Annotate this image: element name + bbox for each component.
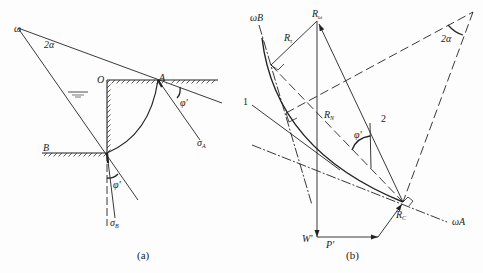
label-omega-a: ωA [452, 217, 465, 227]
r-tau-line [271, 21, 317, 65]
apex-dashed-2 [403, 12, 473, 202]
figure-canvas: ω 2α O A B φ' φ' σA σB (a) ωB Rω Rτ RN φ… [0, 0, 483, 273]
omega-b-line [18, 28, 138, 200]
label-2alpha-a: 2α [44, 40, 54, 50]
apex-dashed-1 [286, 12, 473, 113]
label-sigma-b: σB [110, 218, 119, 229]
label-r-n: RN [324, 110, 334, 121]
label-r-c: RC [396, 210, 406, 221]
label-phi-a: φ' [180, 98, 188, 108]
diagram-drawing [0, 0, 483, 273]
label-w: W' [302, 234, 312, 244]
sigma-a-line [158, 80, 200, 140]
panel-b [252, 12, 473, 237]
omega-a-axis [252, 145, 447, 222]
caption-b: (b) [346, 250, 359, 261]
omega-b-axis [259, 25, 312, 205]
label-line-1: 1 [243, 97, 248, 107]
label-omega: ω [14, 24, 21, 34]
caption-a: (a) [137, 250, 149, 261]
label-A: A [159, 73, 165, 83]
label-2alpha-b: 2α [441, 34, 451, 44]
label-r-omega: Rω [312, 9, 322, 20]
label-sigma-a: σA [197, 138, 206, 149]
label-O: O [97, 75, 104, 85]
label-omega-b: ωB [250, 13, 263, 23]
label-phi-b: φ' [113, 180, 121, 190]
label-p: P' [326, 240, 334, 250]
slip-arc [107, 80, 158, 153]
line-2 [370, 123, 371, 168]
label-phi-b: φ' [354, 130, 362, 140]
panel-a [18, 28, 222, 226]
label-line-2: 2 [381, 114, 386, 124]
label-r-tau: Rτ [284, 33, 292, 44]
label-B: B [43, 143, 49, 153]
